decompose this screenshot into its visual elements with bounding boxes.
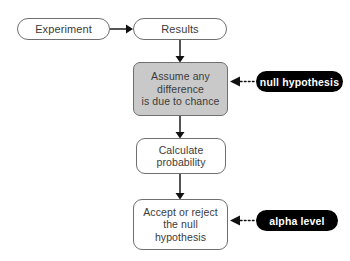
- node-experiment: Experiment: [17, 18, 110, 40]
- callout-alpha-level: alpha level: [256, 210, 338, 231]
- connector-alpha-level-to-accept: [230, 216, 254, 226]
- connector-calculate-to-accept: [176, 174, 185, 200]
- connector-assume-to-calculate: [176, 116, 185, 139]
- connector-experiment-to-results: [110, 25, 133, 34]
- node-calculate-label: Calculate probability: [157, 144, 206, 169]
- callout-null-hypothesis: null hypothesis: [256, 71, 343, 92]
- node-results-label: Results: [161, 23, 198, 36]
- node-assume-difference-is-due-to-chance: Assume any difference is due to chance: [133, 62, 228, 116]
- node-results: Results: [133, 18, 227, 40]
- node-accept-or-reject-null-hypothesis: Accept or reject the null hypothesis: [133, 199, 228, 250]
- node-accept-label: Accept or reject the null hypothesis: [143, 206, 218, 243]
- callout-null-hypothesis-label: null hypothesis: [260, 76, 339, 88]
- connector-null-hypothesis-to-assume: [230, 77, 254, 87]
- node-calculate-probability: Calculate probability: [136, 138, 226, 174]
- node-experiment-label: Experiment: [35, 23, 92, 36]
- node-assume-label: Assume any difference is due to chance: [141, 70, 219, 107]
- connector-results-to-assume: [176, 40, 185, 63]
- callout-alpha-level-label: alpha level: [269, 215, 324, 227]
